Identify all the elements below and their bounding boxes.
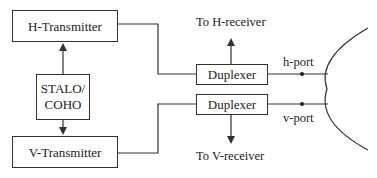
to-v-receiver-label: To V-receiver [196,149,264,163]
duplexer-h-block: Duplexer [196,64,268,85]
h-transmitter-to-duplexer-line [118,24,196,74]
v-transmitter-to-duplexer-line [118,104,196,153]
h-transmitter-label: H-Transmitter [28,19,102,34]
v-transmitter-block: V-Transmitter [12,136,118,168]
coho-label: COHO [45,97,82,113]
v-port-label: v-port [283,111,314,125]
v-transmitter-label: V-Transmitter [29,145,102,160]
duplexer-h-label: Duplexer [208,67,256,82]
duplexer-v-label: Duplexer [208,97,256,112]
h-transmitter-block: H-Transmitter [12,10,118,42]
to-h-receiver-label: To H-receiver [196,15,266,29]
stalo-label: STALO/ [41,81,85,97]
h-port-label: h-port [283,55,314,69]
v-port-dot [300,102,304,106]
h-port-dot [300,72,304,76]
duplexer-v-block: Duplexer [196,94,268,115]
antenna-reflector-icon [325,28,368,150]
stalo-coho-block: STALO/ COHO [36,74,90,120]
